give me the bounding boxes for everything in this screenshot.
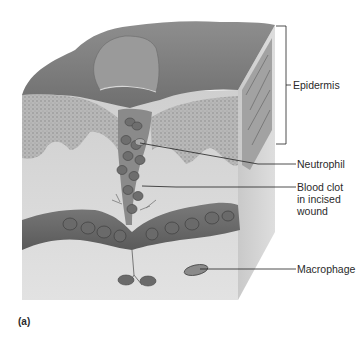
panel-label: (a) xyxy=(18,316,30,327)
neutrophil-cell xyxy=(135,139,145,146)
label-neutrophil: Neutrophil xyxy=(297,158,345,170)
label-blood-clot-1: Blood clot xyxy=(297,181,343,193)
label-blood-clot-3: wound xyxy=(297,205,328,217)
epidermis-bracket xyxy=(276,26,291,144)
label-macrophage: Macrophage xyxy=(297,263,355,275)
label-epidermis: Epidermis xyxy=(293,79,340,91)
label-blood-clot-2: in incised xyxy=(297,193,341,205)
